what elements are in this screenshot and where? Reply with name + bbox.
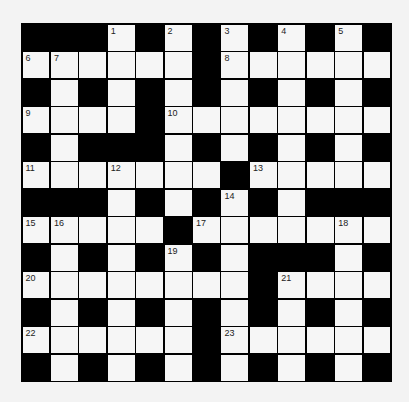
answer-cell[interactable] bbox=[51, 107, 78, 133]
answer-cell[interactable]: 14 bbox=[221, 190, 248, 216]
answer-cell[interactable] bbox=[221, 107, 248, 133]
answer-cell[interactable] bbox=[364, 162, 391, 188]
answer-cell[interactable] bbox=[165, 327, 192, 353]
answer-cell[interactable] bbox=[108, 107, 135, 133]
answer-cell[interactable] bbox=[250, 327, 277, 353]
answer-cell[interactable] bbox=[79, 217, 106, 243]
answer-cell[interactable] bbox=[165, 355, 192, 381]
answer-cell[interactable] bbox=[165, 135, 192, 161]
answer-cell[interactable] bbox=[221, 355, 248, 381]
answer-cell[interactable] bbox=[79, 52, 106, 78]
answer-cell[interactable] bbox=[221, 300, 248, 326]
answer-cell[interactable]: 19 bbox=[165, 245, 192, 271]
answer-cell[interactable] bbox=[108, 245, 135, 271]
answer-cell[interactable] bbox=[108, 217, 135, 243]
answer-cell[interactable] bbox=[250, 52, 277, 78]
answer-cell[interactable] bbox=[108, 190, 135, 216]
answer-cell[interactable]: 12 bbox=[108, 162, 135, 188]
answer-cell[interactable]: 20 bbox=[23, 272, 50, 298]
answer-cell[interactable]: 7 bbox=[51, 52, 78, 78]
answer-cell[interactable] bbox=[364, 52, 391, 78]
answer-cell[interactable] bbox=[221, 245, 248, 271]
answer-cell[interactable] bbox=[335, 355, 362, 381]
answer-cell[interactable] bbox=[278, 300, 305, 326]
answer-cell[interactable] bbox=[136, 217, 163, 243]
answer-cell[interactable] bbox=[250, 107, 277, 133]
answer-cell[interactable] bbox=[307, 217, 334, 243]
answer-cell[interactable] bbox=[51, 80, 78, 106]
answer-cell[interactable] bbox=[51, 135, 78, 161]
answer-cell[interactable] bbox=[136, 162, 163, 188]
answer-cell[interactable] bbox=[108, 355, 135, 381]
answer-cell[interactable] bbox=[51, 327, 78, 353]
answer-cell[interactable] bbox=[108, 327, 135, 353]
answer-cell[interactable] bbox=[165, 272, 192, 298]
answer-cell[interactable] bbox=[79, 162, 106, 188]
answer-cell[interactable] bbox=[136, 327, 163, 353]
answer-cell[interactable] bbox=[221, 272, 248, 298]
answer-cell[interactable] bbox=[335, 300, 362, 326]
answer-cell[interactable] bbox=[278, 135, 305, 161]
answer-cell[interactable] bbox=[278, 190, 305, 216]
answer-cell[interactable] bbox=[221, 135, 248, 161]
answer-cell[interactable] bbox=[51, 300, 78, 326]
answer-cell[interactable] bbox=[364, 217, 391, 243]
answer-cell[interactable]: 22 bbox=[23, 327, 50, 353]
answer-cell[interactable] bbox=[335, 52, 362, 78]
answer-cell[interactable] bbox=[108, 52, 135, 78]
answer-cell[interactable]: 9 bbox=[23, 107, 50, 133]
answer-cell[interactable] bbox=[250, 217, 277, 243]
answer-cell[interactable] bbox=[51, 245, 78, 271]
answer-cell[interactable] bbox=[364, 327, 391, 353]
answer-cell[interactable]: 16 bbox=[51, 217, 78, 243]
answer-cell[interactable] bbox=[335, 135, 362, 161]
answer-cell[interactable] bbox=[165, 80, 192, 106]
answer-cell[interactable] bbox=[307, 327, 334, 353]
answer-cell[interactable] bbox=[165, 162, 192, 188]
answer-cell[interactable] bbox=[278, 355, 305, 381]
answer-cell[interactable]: 17 bbox=[193, 217, 220, 243]
answer-cell[interactable]: 5 bbox=[335, 25, 362, 51]
answer-cell[interactable]: 18 bbox=[335, 217, 362, 243]
answer-cell[interactable] bbox=[108, 272, 135, 298]
answer-cell[interactable] bbox=[108, 80, 135, 106]
answer-cell[interactable] bbox=[136, 52, 163, 78]
answer-cell[interactable] bbox=[335, 162, 362, 188]
answer-cell[interactable] bbox=[364, 107, 391, 133]
answer-cell[interactable] bbox=[221, 80, 248, 106]
answer-cell[interactable] bbox=[165, 190, 192, 216]
answer-cell[interactable] bbox=[278, 327, 305, 353]
answer-cell[interactable] bbox=[307, 162, 334, 188]
answer-cell[interactable] bbox=[79, 107, 106, 133]
answer-cell[interactable]: 13 bbox=[250, 162, 277, 188]
answer-cell[interactable] bbox=[335, 245, 362, 271]
answer-cell[interactable]: 4 bbox=[278, 25, 305, 51]
answer-cell[interactable] bbox=[307, 52, 334, 78]
answer-cell[interactable]: 6 bbox=[23, 52, 50, 78]
answer-cell[interactable] bbox=[193, 272, 220, 298]
answer-cell[interactable]: 8 bbox=[221, 52, 248, 78]
answer-cell[interactable] bbox=[335, 80, 362, 106]
answer-cell[interactable]: 3 bbox=[221, 25, 248, 51]
answer-cell[interactable] bbox=[335, 327, 362, 353]
answer-cell[interactable]: 11 bbox=[23, 162, 50, 188]
answer-cell[interactable] bbox=[335, 107, 362, 133]
answer-cell[interactable] bbox=[364, 272, 391, 298]
answer-cell[interactable] bbox=[136, 272, 163, 298]
answer-cell[interactable]: 23 bbox=[221, 327, 248, 353]
answer-cell[interactable]: 15 bbox=[23, 217, 50, 243]
answer-cell[interactable] bbox=[278, 162, 305, 188]
answer-cell[interactable] bbox=[193, 162, 220, 188]
answer-cell[interactable] bbox=[79, 272, 106, 298]
answer-cell[interactable] bbox=[278, 80, 305, 106]
answer-cell[interactable]: 21 bbox=[278, 272, 305, 298]
answer-cell[interactable] bbox=[278, 107, 305, 133]
answer-cell[interactable] bbox=[193, 107, 220, 133]
answer-cell[interactable] bbox=[51, 355, 78, 381]
answer-cell[interactable] bbox=[307, 107, 334, 133]
answer-cell[interactable]: 10 bbox=[165, 107, 192, 133]
answer-cell[interactable] bbox=[79, 327, 106, 353]
answer-cell[interactable] bbox=[278, 52, 305, 78]
answer-cell[interactable]: 2 bbox=[165, 25, 192, 51]
answer-cell[interactable] bbox=[278, 217, 305, 243]
